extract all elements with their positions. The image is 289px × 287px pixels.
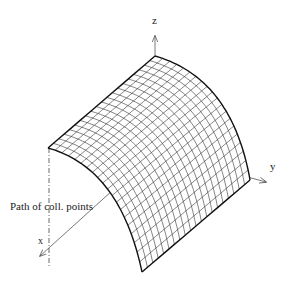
x-axis-label: x: [38, 235, 43, 246]
y-axis-label: y: [270, 160, 276, 172]
z-axis-label: z: [152, 14, 157, 26]
surface-mesh: [48, 56, 250, 272]
shell-surface-diagram: z y x Path of coll. points: [0, 0, 289, 287]
path-annotation: Path of coll. points: [10, 200, 93, 212]
